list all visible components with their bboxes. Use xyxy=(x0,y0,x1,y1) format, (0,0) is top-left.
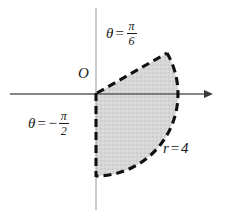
fraction-pi-over-2: π 2 xyxy=(59,111,69,137)
fraction-pi-over-6: π 6 xyxy=(127,21,137,47)
denominator-6: 6 xyxy=(127,35,137,47)
r-symbol: r xyxy=(163,140,169,156)
label-theta-negative-pi-over-2: θ=− π 2 xyxy=(28,112,70,138)
numerator-pi-lower: π xyxy=(59,111,69,122)
equals-sign-lower: = xyxy=(35,115,47,131)
numerator-pi-upper: π xyxy=(127,21,137,32)
label-r-equals-4: r=4 xyxy=(163,141,188,156)
label-origin: O xyxy=(78,66,89,81)
denominator-2: 2 xyxy=(59,125,69,137)
equals-sign-upper: = xyxy=(113,25,125,41)
label-theta-pi-over-6: θ= π 6 xyxy=(106,22,138,48)
minus-sign-lower: − xyxy=(48,115,58,131)
radius-value: 4 xyxy=(181,140,189,156)
equals-sign-radius: = xyxy=(169,140,181,156)
